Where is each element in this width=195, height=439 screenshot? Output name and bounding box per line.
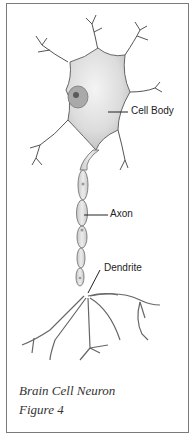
caption-figure-number: Figure 4: [19, 402, 64, 418]
label-axon: Axon: [110, 208, 133, 219]
neuron-illustration: [0, 0, 195, 439]
caption-title: Brain Cell Neuron: [19, 383, 115, 399]
label-dendrite: Dendrite: [104, 262, 142, 273]
nucleolus: [73, 92, 79, 98]
lower-dendrites: [22, 294, 160, 360]
label-cell-body: Cell Body: [131, 105, 174, 116]
axon-shape: [76, 150, 99, 286]
